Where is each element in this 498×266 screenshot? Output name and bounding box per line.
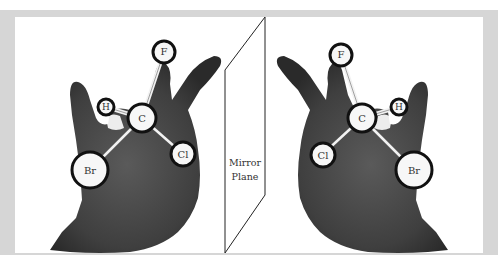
svg-text:C: C <box>138 113 146 124</box>
left-atom-c: C <box>128 104 156 132</box>
svg-text:Cl: Cl <box>318 150 329 161</box>
right-atom-cl: Cl <box>311 143 335 167</box>
svg-text:H: H <box>395 102 403 112</box>
right-atom-h: H <box>391 99 407 115</box>
figure-canvas: Mirror Plane F H Br Cl <box>0 0 498 266</box>
mirror-label-line1: Mirror <box>229 157 262 168</box>
svg-text:C: C <box>358 113 366 124</box>
left-atom-cl: Cl <box>171 142 195 166</box>
svg-text:Br: Br <box>408 165 420 176</box>
mirror-plane: Mirror Plane <box>225 17 265 253</box>
left-atom-f: F <box>153 41 175 63</box>
right-atom-br: Br <box>396 152 432 188</box>
left-atom-h: H <box>98 99 114 115</box>
right-atom-c: C <box>348 104 376 132</box>
mirror-label-line2: Plane <box>232 171 259 182</box>
svg-text:Br: Br <box>84 165 96 176</box>
svg-text:F: F <box>338 49 345 60</box>
right-atom-f: F <box>330 44 352 66</box>
svg-text:Cl: Cl <box>178 149 189 160</box>
diagram-svg: Mirror Plane F H Br Cl <box>0 0 498 266</box>
svg-text:H: H <box>102 102 110 112</box>
left-atom-br: Br <box>72 152 108 188</box>
svg-text:F: F <box>161 46 168 57</box>
